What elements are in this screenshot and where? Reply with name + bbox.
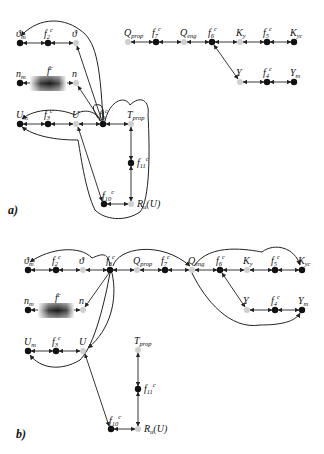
- node-T_prop: [135, 347, 141, 353]
- node-label-f11: f11c: [137, 155, 149, 169]
- node-f4: [272, 307, 278, 313]
- node-theta_m: [17, 40, 23, 46]
- node-label-f10: f10c: [102, 188, 114, 202]
- node-label-f6: f6c: [216, 253, 225, 267]
- node-n: [80, 307, 86, 313]
- panel-a-edges: [23, 42, 291, 204]
- node-label-R_u: Ru(U): [136, 198, 161, 210]
- node-label-theta: ϑ: [72, 28, 78, 39]
- node-f3: [53, 348, 59, 354]
- node-f2: [45, 40, 51, 46]
- node-f9: [100, 121, 106, 127]
- node-label-n_m: nm: [24, 295, 34, 307]
- node-f7: [162, 267, 168, 273]
- panel-a-nodes: ϑmf2cϑnmnUmf3cUf9cTpropf11cf10cRu(U)Qpro…: [16, 25, 303, 210]
- node-label-theta: ϑ: [79, 255, 85, 266]
- node-f6: [217, 267, 223, 273]
- panel-b-label: b): [16, 427, 26, 441]
- node-U_m: [17, 121, 23, 127]
- node-K_yc: [291, 39, 297, 45]
- node-label-Y: Y: [243, 295, 250, 306]
- node-label-Q_prop: Qprop: [133, 255, 153, 267]
- node-label-n_m: nm: [16, 68, 26, 80]
- node-R_u: [135, 426, 141, 432]
- node-label-theta_m: ϑm: [16, 28, 26, 40]
- node-f6: [209, 39, 215, 45]
- node-label-Y: Y: [236, 67, 243, 78]
- node-label-Q_prop: Qprop: [124, 27, 144, 39]
- node-label-U_m: Um: [16, 109, 28, 121]
- node-f11: [135, 386, 141, 392]
- node-Y: [244, 307, 250, 313]
- node-theta: [73, 40, 79, 46]
- node-T_prop: [128, 121, 134, 127]
- node-label-f2: f2c: [52, 253, 61, 267]
- node-U: [73, 121, 79, 127]
- node-label-f7: f7c: [161, 253, 170, 267]
- node-label-Y_m: Ym: [290, 67, 301, 79]
- node-U_m: [25, 348, 31, 354]
- panel-a-label: a): [8, 203, 18, 217]
- node-label-n: n: [72, 68, 77, 79]
- node-Q_eng: [189, 267, 195, 273]
- node-n_m: [17, 80, 23, 86]
- node-label-f10: f10c: [109, 413, 121, 427]
- node-label-T_prop: Tprop: [127, 109, 145, 121]
- node-Y_m: [299, 307, 305, 313]
- node-n: [73, 80, 79, 86]
- node-label-K_yc: Kyc: [297, 255, 311, 267]
- node-label-Q_eng: Qeng: [180, 27, 197, 39]
- bond-graph-diagram: fc ϑmf2cϑnmnUmf3cUf9cTpropf11cf10cRu(U)Q…: [0, 0, 324, 454]
- node-label-K_y: Ky: [242, 255, 253, 267]
- node-R_u: [128, 201, 134, 207]
- node-theta_m: [25, 267, 31, 273]
- node-label-theta_m: ϑm: [24, 255, 34, 267]
- node-n_m: [25, 307, 31, 313]
- node-label-f5: f5c: [263, 25, 272, 39]
- node-f11: [128, 160, 134, 166]
- node-f4: [264, 79, 270, 85]
- panel-b: fc ϑmf2cϑf8cQpropf7cQengf6cKyf5cKycYf4cY…: [16, 247, 311, 441]
- node-label-f3: f3c: [44, 107, 53, 121]
- node-f5: [272, 267, 278, 273]
- node-label-R_u: Ru(U): [143, 423, 168, 435]
- f1-label-b: fc: [55, 291, 61, 303]
- node-Y: [237, 79, 243, 85]
- node-label-U: U: [79, 336, 87, 347]
- node-f7: [153, 39, 159, 45]
- f1-label: fc: [47, 64, 53, 76]
- node-U: [80, 348, 86, 354]
- node-label-T_prop: Tprop: [134, 335, 152, 347]
- node-Y_m: [291, 79, 297, 85]
- node-label-f3: f3c: [52, 334, 61, 348]
- node-label-f11: f11c: [144, 381, 156, 395]
- node-label-f4: f4c: [263, 65, 272, 79]
- node-label-f2: f2c: [44, 26, 53, 40]
- node-label-n: n: [79, 295, 84, 306]
- panel-b-nodes: ϑmf2cϑf8cQpropf7cQengf6cKyf5cKycYf4cYmnm…: [24, 253, 311, 435]
- node-label-K_y: Ky: [235, 27, 246, 39]
- node-label-Y_m: Ym: [298, 295, 309, 307]
- node-label-f6: f6c: [208, 25, 217, 39]
- node-f5: [264, 39, 270, 45]
- node-K_y: [244, 267, 250, 273]
- node-label-U: U: [72, 109, 80, 120]
- node-label-U_m: Um: [24, 336, 36, 348]
- node-K_yc: [299, 267, 305, 273]
- node-label-K_yc: Kyc: [289, 27, 303, 39]
- node-theta: [80, 267, 86, 273]
- node-label-f4: f4c: [271, 293, 280, 307]
- node-f3: [45, 121, 51, 127]
- panel-b-edges: [31, 270, 299, 429]
- node-label-f5: f5c: [271, 253, 280, 267]
- node-Q_prop: [134, 267, 140, 273]
- node-label-f7: f7c: [152, 25, 161, 39]
- node-Q_eng: [181, 39, 187, 45]
- panel-a: fc ϑmf2cϑnmnUmf3cUf9cTpropf11cf10cRu(U)Q…: [8, 21, 303, 219]
- node-f8: [107, 267, 113, 273]
- node-Q_prop: [125, 39, 131, 45]
- node-f2: [53, 267, 59, 273]
- node-K_y: [237, 39, 243, 45]
